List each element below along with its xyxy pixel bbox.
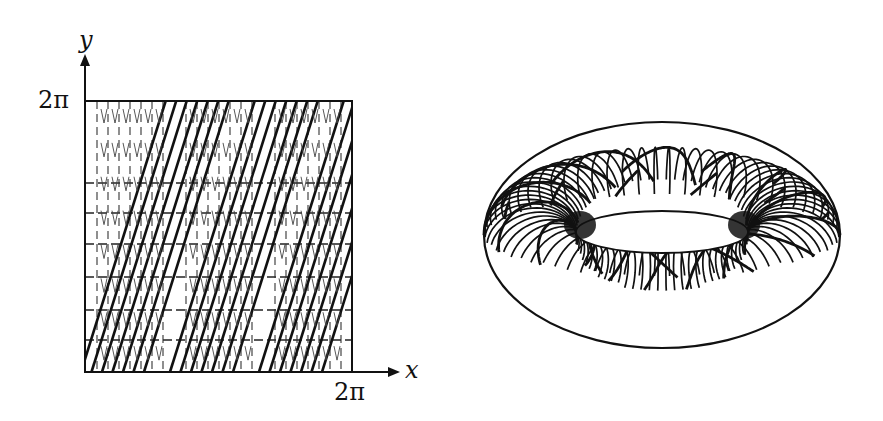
trajectory-line <box>191 101 276 372</box>
torus-meridian <box>666 147 670 194</box>
torus-meridian <box>654 147 658 194</box>
trajectory-line <box>301 101 386 372</box>
trajectory-line <box>81 101 166 372</box>
torus-hole <box>576 211 748 253</box>
trajectory-line <box>259 101 344 372</box>
trajectory-line <box>212 101 297 372</box>
trajectory-line <box>113 101 198 372</box>
trajectory-line <box>134 101 219 372</box>
figure-canvas <box>0 0 883 421</box>
trajectory-line <box>123 101 208 372</box>
trajectory-line <box>312 101 397 372</box>
figure: y 2π x 2π <box>0 0 883 421</box>
x-axis-arrow-icon <box>388 367 400 377</box>
torus-plot <box>484 122 840 348</box>
trajectory-line <box>102 101 187 372</box>
trajectory-line <box>170 101 255 372</box>
y-axis-arrow-icon <box>80 54 90 66</box>
x-axis-label: x <box>405 356 419 384</box>
y-axis-label: y <box>79 26 93 54</box>
y-tick-label: 2π <box>38 86 69 114</box>
trajectory-line <box>291 101 376 372</box>
square-flow-plot <box>80 54 407 377</box>
trajectory-line <box>202 101 287 372</box>
trajectory-line <box>223 101 308 372</box>
x-tick-label: 2π <box>334 378 365 406</box>
torus-wireframe <box>484 122 840 348</box>
trajectory-line <box>322 101 407 372</box>
